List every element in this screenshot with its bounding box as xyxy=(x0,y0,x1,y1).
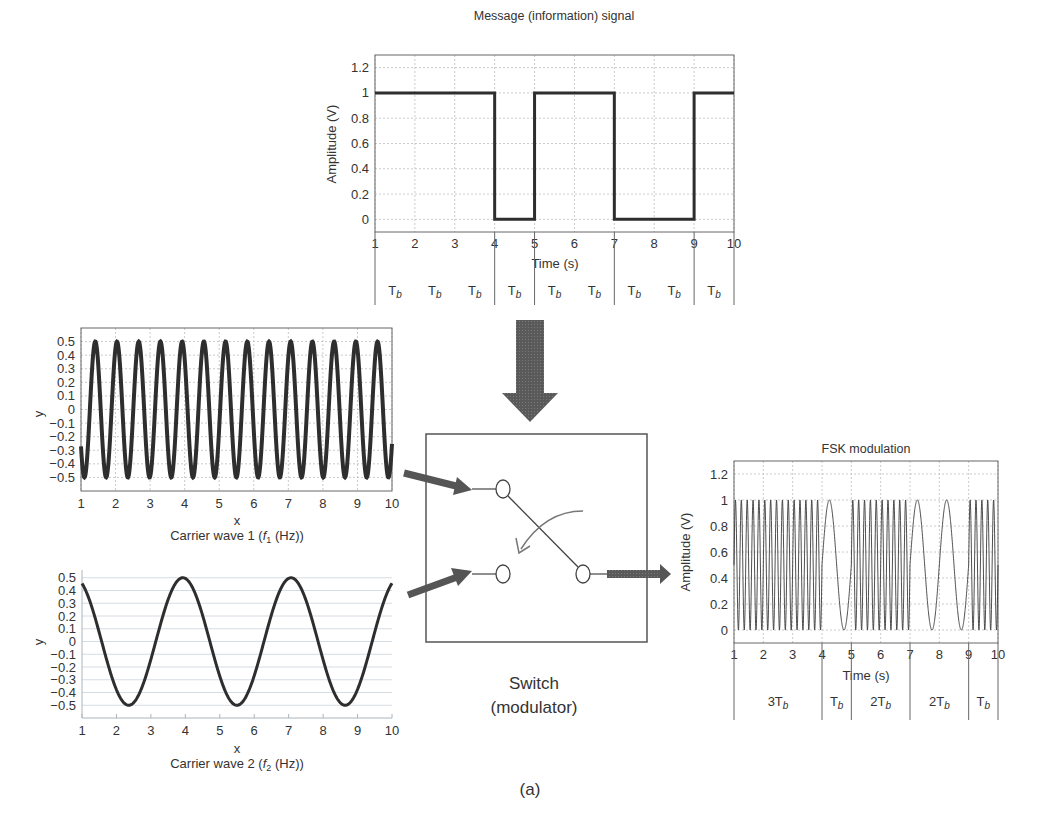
output-arrow-icon xyxy=(607,564,671,584)
y-tick: 1.2 xyxy=(351,60,369,75)
x-axis-label: x xyxy=(234,513,241,528)
y-tick: 0 xyxy=(721,623,728,638)
x-tick: 3 xyxy=(147,723,154,738)
grid xyxy=(82,578,392,718)
carrier-2-caption: Carrier wave 2 (f2 (Hz)) xyxy=(170,756,304,773)
segment-label: Tb xyxy=(830,694,844,711)
x-tick: 2 xyxy=(112,496,119,511)
segment-label: Tb xyxy=(977,694,991,711)
curved-arrow-icon xyxy=(516,511,583,553)
x-tick: 9 xyxy=(354,496,361,511)
x-tick: 1 xyxy=(78,723,85,738)
figure-caption: (a) xyxy=(520,780,541,799)
x-tick: 5 xyxy=(216,496,223,511)
x-tick: 2 xyxy=(411,236,418,251)
x-tick: 8 xyxy=(319,496,326,511)
segment-label: 3Tb xyxy=(768,694,789,711)
y-tick: −0.5 xyxy=(49,470,75,485)
segment-label: 2Tb xyxy=(929,694,950,711)
grid xyxy=(375,55,734,232)
x-tick: 2 xyxy=(113,723,120,738)
y-tick: 0 xyxy=(362,212,369,227)
y-axis-label: y xyxy=(31,638,46,645)
x-tick: 10 xyxy=(385,723,399,738)
x-tick: 7 xyxy=(285,723,292,738)
x-tick: 6 xyxy=(877,647,884,662)
x-axis-label: x xyxy=(234,741,241,756)
x-tick: 10 xyxy=(385,496,399,511)
bit-label: Tb xyxy=(667,283,681,300)
switch-label: Switch xyxy=(509,674,559,693)
fsk-modulation-chart: FSK modulation 00.20.40.60.811.2 1234567… xyxy=(678,442,1005,720)
bit-label: Tb xyxy=(707,283,721,300)
chart-title: FSK modulation xyxy=(822,442,911,456)
x-tick-labels: 12345678910 xyxy=(77,496,399,511)
input-arrow-1-icon xyxy=(404,473,472,495)
x-tick: 8 xyxy=(319,723,326,738)
bit-label: Tb xyxy=(468,283,482,300)
x-tick: 4 xyxy=(182,723,189,738)
y-axis-label: Amplitude (V) xyxy=(678,513,693,592)
x-tick-labels: 12345678910 xyxy=(371,236,741,251)
y-tick-labels: 00.20.40.60.811.2 xyxy=(351,60,369,227)
y-tick-labels: 0.50.40.30.20.10−0.1−0.2−0.3−0.4−0.5 xyxy=(49,334,75,485)
x-tick: 2 xyxy=(760,647,767,662)
x-tick: 3 xyxy=(451,236,458,251)
chart-title: Message (information) signal xyxy=(474,9,635,23)
x-tick-labels: 12345678910 xyxy=(78,723,399,738)
y-tick: 1 xyxy=(362,85,369,100)
switch-box xyxy=(426,434,647,642)
bit-label: Tb xyxy=(588,283,602,300)
y-tick: −0.5 xyxy=(50,698,76,713)
bit-label: Tb xyxy=(428,283,442,300)
y-axis-label: y xyxy=(31,410,46,417)
y-tick: 1.2 xyxy=(710,467,728,482)
y-tick-labels: 0.50.40.30.20.10−0.1−0.2−0.3−0.4−0.5 xyxy=(50,570,76,713)
y-tick: 0.8 xyxy=(351,111,369,126)
y-tick: 0.6 xyxy=(351,136,369,151)
x-tick: 5 xyxy=(216,723,223,738)
modulator-label: (modulator) xyxy=(491,698,578,717)
switch-lever xyxy=(508,496,578,567)
x-tick-labels: 12345678910 xyxy=(730,647,1005,662)
carrier-wave-1-chart: 0.50.40.30.20.10−0.1−0.2−0.3−0.4−0.5 123… xyxy=(31,328,399,545)
y-tick: 0.8 xyxy=(710,519,728,534)
fsk-diagram: Message (information) signal 00.20.40.60… xyxy=(0,0,1041,822)
y-tick: 0.2 xyxy=(351,187,369,202)
y-tick: 0.4 xyxy=(710,571,728,586)
y-tick: 0.6 xyxy=(710,545,728,560)
y-axis-label: Amplitude (V) xyxy=(324,105,339,184)
x-axis-label: Time (s) xyxy=(531,256,578,271)
input-arrow-2-icon xyxy=(408,568,472,595)
switch-modulator: Switch (modulator) xyxy=(404,434,671,717)
x-tick: 8 xyxy=(936,647,943,662)
x-tick: 3 xyxy=(146,496,153,511)
y-tick: 0.2 xyxy=(710,597,728,612)
switch-contact-1 xyxy=(496,480,510,498)
bit-label: Tb xyxy=(628,283,642,300)
down-arrow-icon xyxy=(502,320,558,422)
x-tick: 3 xyxy=(789,647,796,662)
segment-label: 2Tb xyxy=(870,694,891,711)
x-tick: 6 xyxy=(250,496,257,511)
x-tick: 9 xyxy=(354,723,361,738)
y-tick: 0.4 xyxy=(351,161,369,176)
x-tick: 7 xyxy=(285,496,292,511)
x-axis-label: Time (s) xyxy=(842,668,889,683)
x-tick: 4 xyxy=(181,496,188,511)
bit-label: Tb xyxy=(388,283,402,300)
carrier-1-caption: Carrier wave 1 (f1 (Hz)) xyxy=(170,528,304,545)
x-tick: 6 xyxy=(251,723,258,738)
carrier-wave-2-chart: 0.50.40.30.20.10−0.1−0.2−0.3−0.4−0.5 123… xyxy=(31,570,399,773)
x-tick: 1 xyxy=(77,496,84,511)
x-tick: 6 xyxy=(571,236,578,251)
switch-output-contact xyxy=(576,565,590,583)
switch-contact-2 xyxy=(496,565,510,583)
message-signal-chart: Message (information) signal 00.20.40.60… xyxy=(324,9,741,305)
fsk-waveform xyxy=(734,500,998,630)
x-tick: 8 xyxy=(651,236,658,251)
bit-label: Tb xyxy=(548,283,562,300)
bit-label: Tb xyxy=(508,283,522,300)
y-tick-labels: 00.20.40.60.811.2 xyxy=(710,467,728,638)
message-waveform xyxy=(375,93,734,219)
